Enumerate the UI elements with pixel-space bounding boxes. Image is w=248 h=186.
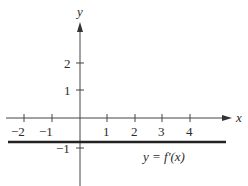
x-tick-label: 3 (158, 124, 165, 139)
y-tick-label: 2 (64, 56, 71, 71)
y-tick-label: 1 (64, 83, 71, 98)
x-axis-label: x (235, 110, 242, 125)
y-axis-arrow-icon (77, 22, 83, 32)
x-tick-label: 4 (186, 124, 193, 139)
graph-figure: y x −2 −1 1 2 3 4 2 1 −1 y = f′(x) (0, 0, 248, 186)
y-axis-label: y (75, 4, 83, 19)
x-tick-label: −2 (11, 124, 25, 139)
x-tick-label: −1 (39, 124, 53, 139)
curve-label: y = f′(x) (141, 149, 185, 164)
x-axis-arrow-icon (222, 115, 232, 121)
x-tick-label: 1 (103, 124, 110, 139)
x-tick-label: 2 (131, 124, 138, 139)
